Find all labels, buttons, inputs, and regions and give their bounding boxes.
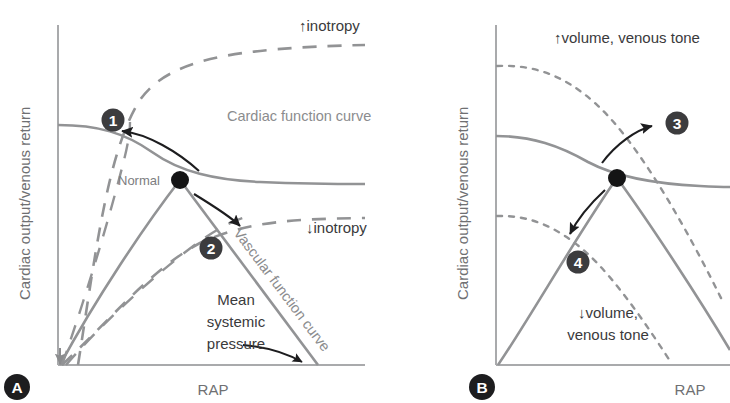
panel-b-label-down-volume-line1: ↓volume,	[578, 304, 638, 321]
panel-b-label-down-volume-line2: venous tone	[567, 326, 649, 343]
panel-b-x-axis-label: RAP	[675, 381, 706, 398]
panel-b-curve-venous-falling	[617, 178, 730, 350]
panel-a-badge-1-label: 1	[109, 112, 118, 129]
panel-b-letter: B	[476, 379, 487, 396]
panel-a-letter-badge: A	[4, 374, 30, 400]
panel-a-letter: A	[11, 379, 22, 396]
panel-b: Cardiac output/venous return RAP ↑volume…	[454, 25, 730, 400]
panel-a-curve-vascular-rising	[60, 180, 180, 365]
panel-a-x-axis-label: RAP	[198, 381, 229, 398]
panel-a-curve-cardiac-function	[58, 125, 365, 184]
panel-a-badge-2: 2	[200, 237, 223, 260]
panel-a-y-axis-label: Cardiac output/venous return	[16, 107, 33, 300]
panel-a-label-up-inotropy: ↑inotropy	[299, 17, 360, 34]
panel-a-curve-vascular-steep-dashed	[62, 122, 130, 365]
panel-b-badge-3-label: 3	[673, 115, 682, 132]
physiology-figure: Cardiac output/venous return RAP ↑inotro…	[0, 0, 730, 403]
panel-b-badge-4: 4	[567, 251, 590, 274]
panel-b-letter-badge: B	[469, 374, 495, 400]
panel-b-label-up-volume: ↑volume, venous tone	[554, 29, 700, 46]
panel-b-badge-4-label: 4	[574, 254, 583, 271]
panel-a-label-normal: Normal	[118, 173, 160, 188]
figure-svg: Cardiac output/venous return RAP ↑inotro…	[0, 0, 730, 403]
panel-b-operating-point-dot	[608, 169, 626, 187]
panel-b-arrow-up-volume	[602, 126, 652, 163]
panel-a-label-mean-systemic-pressure-line3: pressure	[207, 335, 265, 352]
panel-a-arrow-up-inotropy	[122, 131, 199, 171]
panel-a-badge-2-label: 2	[207, 240, 216, 257]
panel-a-label-cardiac-function-curve: Cardiac function curve	[227, 108, 371, 124]
panel-a-label-mean-systemic-pressure-line2: systemic	[207, 313, 266, 330]
panel-a-label-down-inotropy: ↓inotropy	[306, 219, 367, 236]
panel-a-operating-point-dot	[171, 171, 189, 189]
panel-b-badge-3: 3	[666, 112, 689, 135]
panel-a-badge-1: 1	[102, 109, 125, 132]
panel-a-label-mean-systemic-pressure-line1: Mean	[217, 291, 255, 308]
panel-b-arrow-down-volume	[570, 190, 605, 234]
panel-a: Cardiac output/venous return RAP ↑inotro…	[4, 17, 371, 400]
panel-b-y-axis-label: Cardiac output/venous return	[454, 107, 471, 300]
